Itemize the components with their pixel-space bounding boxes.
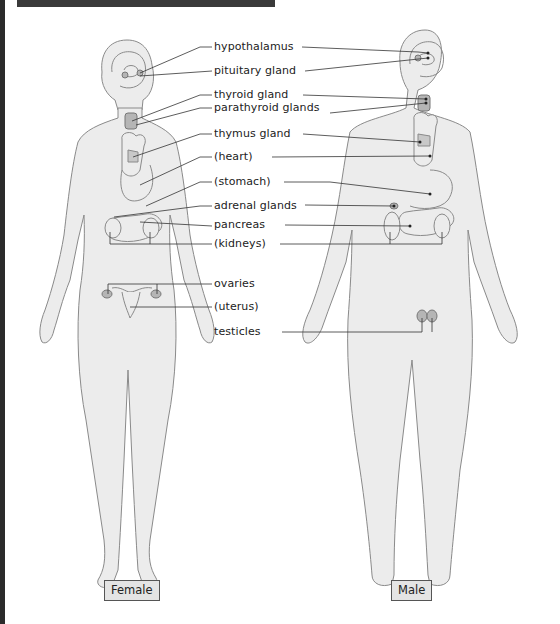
female-label: Female <box>104 580 160 601</box>
label-ovaries: ovaries <box>214 277 255 290</box>
label-heart: (heart) <box>214 150 253 163</box>
label-kidneys: (kidneys) <box>214 237 266 250</box>
label-stomach: (stomach) <box>214 175 271 188</box>
label-uterus: (uterus) <box>214 300 259 313</box>
label-thymus-gland: thymus gland <box>214 127 291 140</box>
label-parathyroid-glands: parathyroid glands <box>214 101 320 114</box>
label-hypothalamus: hypothalamus <box>214 40 294 53</box>
label-pancreas: pancreas <box>214 218 265 231</box>
male-label: Male <box>391 580 432 601</box>
label-thyroid-gland: thyroid gland <box>214 88 288 101</box>
label-pituitary-gland: pituitary gland <box>214 64 296 77</box>
male-figure <box>303 30 518 586</box>
label-adrenal-glands: adrenal glands <box>214 199 297 212</box>
label-testicles: testicles <box>214 325 261 338</box>
